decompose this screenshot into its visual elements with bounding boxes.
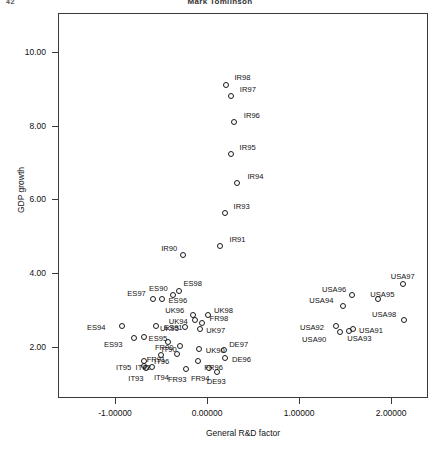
x-tick-mark	[207, 398, 208, 404]
data-point-label: IR97	[240, 86, 256, 94]
data-point-marker	[206, 365, 212, 371]
y-tick-mark	[52, 273, 58, 274]
data-point-label: USA92	[300, 324, 324, 332]
x-axis-label: General R&D factor	[58, 428, 428, 438]
data-point-label: FR93	[168, 376, 187, 384]
data-point-marker	[222, 210, 228, 216]
y-tick-label: 8.00	[2, 121, 46, 131]
data-point-label: IR96	[244, 112, 260, 120]
data-point-label: IR98	[234, 74, 250, 82]
data-point-label: USA90	[302, 336, 326, 344]
data-point-label: FR98	[210, 315, 229, 323]
y-tick-mark	[52, 199, 58, 200]
data-point-label: ES98	[183, 280, 202, 288]
data-point-marker	[170, 292, 176, 298]
x-tick-label: 2.00000	[356, 408, 426, 418]
data-point-marker	[180, 252, 186, 258]
data-point-label: ES90	[149, 285, 168, 293]
x-tick-mark	[299, 398, 300, 404]
data-point-label: IR91	[230, 236, 246, 244]
data-point-label: FR91	[147, 356, 166, 364]
data-point-label: ES93	[104, 341, 123, 349]
data-point-label: USA93	[347, 335, 371, 343]
data-point-label: ES97	[127, 290, 146, 298]
data-point-marker	[228, 151, 234, 157]
data-point-marker	[141, 334, 147, 340]
data-point-marker	[217, 243, 223, 249]
data-point-marker	[177, 343, 183, 349]
x-tick-label: 1.00000	[264, 408, 334, 418]
data-point-marker	[150, 296, 156, 302]
data-point-label: ES95	[149, 335, 168, 343]
data-point-marker	[159, 296, 165, 302]
data-point-label: IR94	[247, 173, 263, 181]
y-tick-label: 10.00	[2, 47, 46, 57]
data-point-label: UK96	[165, 307, 184, 315]
data-point-marker	[400, 281, 406, 287]
data-point-marker	[119, 323, 125, 329]
data-point-marker	[228, 93, 234, 99]
data-point-label: IR95	[240, 144, 256, 152]
data-point-label: DE97	[229, 341, 248, 349]
data-point-label: ES96	[169, 297, 188, 305]
data-point-label: IT94	[154, 374, 169, 382]
data-point-marker	[333, 323, 339, 329]
page-header: 42 Mark Tomlinson	[0, 0, 440, 12]
data-point-label: ES94	[87, 324, 106, 332]
data-point-marker	[199, 320, 205, 326]
y-axis-label: GDP growth	[16, 145, 26, 235]
data-point-marker	[221, 347, 227, 353]
data-point-label: IT95	[116, 364, 131, 372]
x-tick-label: 0.00000	[172, 408, 242, 418]
y-tick-mark	[52, 126, 58, 127]
data-point-label: IT93	[128, 375, 143, 383]
data-point-label: IR90	[161, 245, 177, 253]
running-head: Mark Tomlinson	[0, 0, 440, 6]
data-point-marker	[196, 346, 202, 352]
y-tick-mark	[52, 347, 58, 348]
y-tick-label: 2.00	[2, 342, 46, 352]
data-point-label: USA95	[370, 291, 394, 299]
data-point-label: FR90	[155, 344, 174, 352]
data-point-label: USA98	[372, 311, 396, 319]
data-point-label: IR93	[234, 203, 250, 211]
data-point-marker	[131, 335, 137, 341]
data-point-label: USA94	[309, 297, 333, 305]
x-tick-mark	[391, 398, 392, 404]
data-point-label: UK95	[160, 325, 179, 333]
data-point-label: UK97	[206, 327, 225, 335]
data-point-label: DE96	[232, 356, 251, 364]
y-tick-mark	[52, 52, 58, 53]
data-point-label: USA97	[391, 273, 415, 281]
data-point-label: DE93	[207, 378, 226, 386]
y-tick-label: 4.00	[2, 268, 46, 278]
data-point-marker	[214, 369, 220, 375]
data-point-label: USA96	[322, 286, 346, 294]
data-point-marker	[231, 119, 237, 125]
x-tick-mark	[115, 398, 116, 404]
x-tick-label: -1.00000	[80, 408, 150, 418]
